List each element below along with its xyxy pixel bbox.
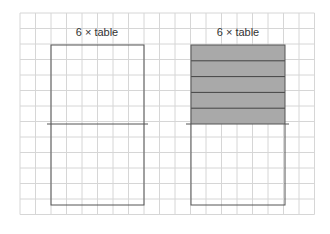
right-table-label: 6 × table bbox=[217, 26, 260, 38]
diagram: 6 × table 6 × table bbox=[0, 0, 330, 234]
shaded-region bbox=[191, 45, 285, 124]
left-table-label: 6 × table bbox=[76, 26, 119, 38]
